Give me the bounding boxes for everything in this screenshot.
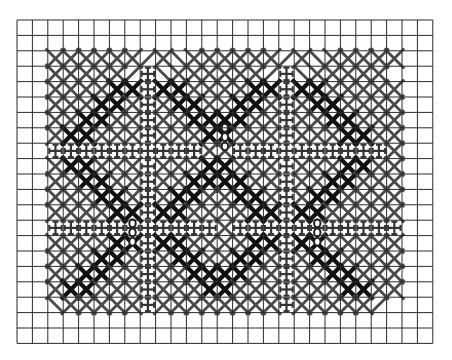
cross-motif (203, 222, 215, 234)
cross-motif (342, 145, 354, 157)
cross-motif (96, 222, 108, 234)
cross-motif (173, 145, 185, 157)
cross-motif (357, 222, 369, 234)
cross-motif (280, 283, 292, 295)
cross-motif (96, 145, 108, 157)
cross-motif (280, 191, 292, 203)
cross-motif (280, 176, 292, 188)
half-stitch (171, 51, 186, 66)
cross-motif (234, 222, 246, 234)
cross-motif (327, 222, 339, 234)
cross-motif (111, 145, 123, 157)
cross-motif (388, 222, 400, 234)
stitch-layer (46, 49, 405, 315)
cross-motif (280, 253, 292, 265)
bead-symbol (314, 238, 320, 246)
cross-motif (296, 222, 308, 234)
cross-motif (142, 237, 154, 249)
cross-motif (357, 145, 369, 157)
cross-motif (142, 114, 154, 126)
cross-motif (234, 145, 246, 157)
half-stitch (294, 66, 309, 81)
cross-motif (49, 222, 61, 234)
cross-motif (280, 160, 292, 172)
cross-motif (142, 222, 154, 234)
cross-stitch (384, 203, 404, 223)
cross-motif (80, 145, 92, 157)
cross-motif (280, 129, 292, 141)
cross-motif (157, 222, 169, 234)
cross-motif (80, 222, 92, 234)
cross-motif (280, 237, 292, 249)
cross-motif (250, 145, 262, 157)
cross-motif (142, 268, 154, 280)
cross-motif (280, 222, 292, 234)
cross-motif (342, 222, 354, 234)
cross-motif (280, 206, 292, 218)
half-stitch (140, 51, 155, 66)
cross-motif (188, 145, 200, 157)
cross-motif (65, 222, 77, 234)
cross-motif (280, 68, 292, 80)
half-stitch (48, 297, 63, 312)
cross-motif (280, 268, 292, 280)
cross-motif (280, 299, 292, 311)
cross-stitch (261, 295, 281, 315)
cross-motif (142, 206, 154, 218)
bead-symbol (129, 238, 135, 246)
cross-motif (373, 222, 385, 234)
cross-motif (280, 99, 292, 111)
cross-stitch-chart (0, 0, 452, 360)
half-stitch (156, 66, 171, 81)
cross-motif (142, 299, 154, 311)
cross-motif (250, 222, 262, 234)
cross-motif (311, 145, 323, 157)
cross-motif (373, 145, 385, 157)
cross-motif (126, 145, 138, 157)
cross-stitch (261, 126, 281, 146)
cross-motif (142, 145, 154, 157)
cross-motif (280, 145, 292, 157)
cross-motif (142, 129, 154, 141)
cross-motif (142, 83, 154, 95)
cross-stitch (123, 126, 143, 146)
cross-motif (280, 83, 292, 95)
cross-motif (142, 191, 154, 203)
cross-motif (65, 145, 77, 157)
cross-stitch (384, 280, 404, 300)
cross-motif (327, 145, 339, 157)
cross-motif (142, 99, 154, 111)
cross-motif (265, 145, 277, 157)
cross-motif (173, 222, 185, 234)
half-stitch (371, 297, 386, 312)
cross-motif (142, 68, 154, 80)
cross-motif (280, 114, 292, 126)
cross-motif (142, 253, 154, 265)
half-stitch (125, 66, 140, 81)
cross-motif (142, 160, 154, 172)
half-stitch (310, 51, 325, 66)
cross-motif (296, 145, 308, 157)
cross-stitch (123, 295, 143, 315)
half-stitch (263, 66, 278, 81)
cross-motif (142, 176, 154, 188)
cross-motif (49, 145, 61, 157)
half-stitch (279, 51, 294, 66)
cross-motif (188, 222, 200, 234)
cross-motif (157, 145, 169, 157)
dark-cross-stitch (261, 203, 281, 223)
cross-motif (142, 283, 154, 295)
bead-symbol (222, 133, 228, 141)
cross-motif (265, 222, 277, 234)
cross-motif (111, 222, 123, 234)
